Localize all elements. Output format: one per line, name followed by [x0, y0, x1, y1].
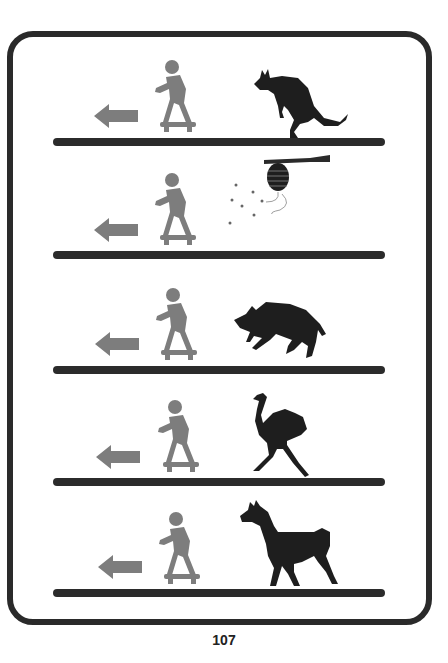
ground-line — [53, 251, 385, 259]
ground-line — [53, 366, 385, 374]
ostrich-icon — [243, 391, 319, 477]
left-arrow-icon — [94, 218, 140, 244]
ground-line — [53, 589, 385, 597]
kangaroo-icon — [252, 66, 352, 141]
ground-line — [53, 478, 385, 486]
skateboarder-icon — [152, 59, 200, 135]
wild-boar-icon — [232, 298, 332, 362]
llama-icon — [238, 496, 342, 588]
skateboarder-icon — [153, 287, 201, 363]
beehive-icon — [222, 154, 332, 234]
left-arrow-icon — [94, 104, 140, 130]
skateboarder-icon — [152, 172, 200, 248]
page-number: 107 — [0, 632, 448, 648]
sign-frame — [7, 31, 432, 625]
left-arrow-icon — [98, 555, 144, 581]
skateboarder-icon — [155, 399, 203, 475]
skateboarder-icon — [156, 511, 204, 587]
left-arrow-icon — [95, 332, 141, 358]
left-arrow-icon — [96, 445, 142, 471]
ground-line — [53, 138, 385, 146]
